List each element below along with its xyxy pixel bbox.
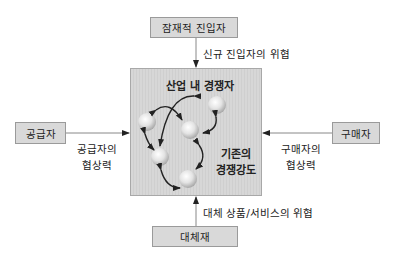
competitor-sphere	[138, 113, 156, 131]
rivalry-arrow	[196, 145, 203, 169]
rivalry-arrow	[161, 170, 180, 188]
rivalry-arrow	[203, 117, 216, 133]
competitor-sphere	[181, 121, 199, 139]
rivalry-graphic	[0, 0, 393, 261]
competitor-sphere	[151, 148, 169, 166]
rivalry-arrow	[145, 134, 154, 150]
competitor-sphere	[179, 170, 197, 188]
competitor-sphere	[208, 96, 226, 114]
